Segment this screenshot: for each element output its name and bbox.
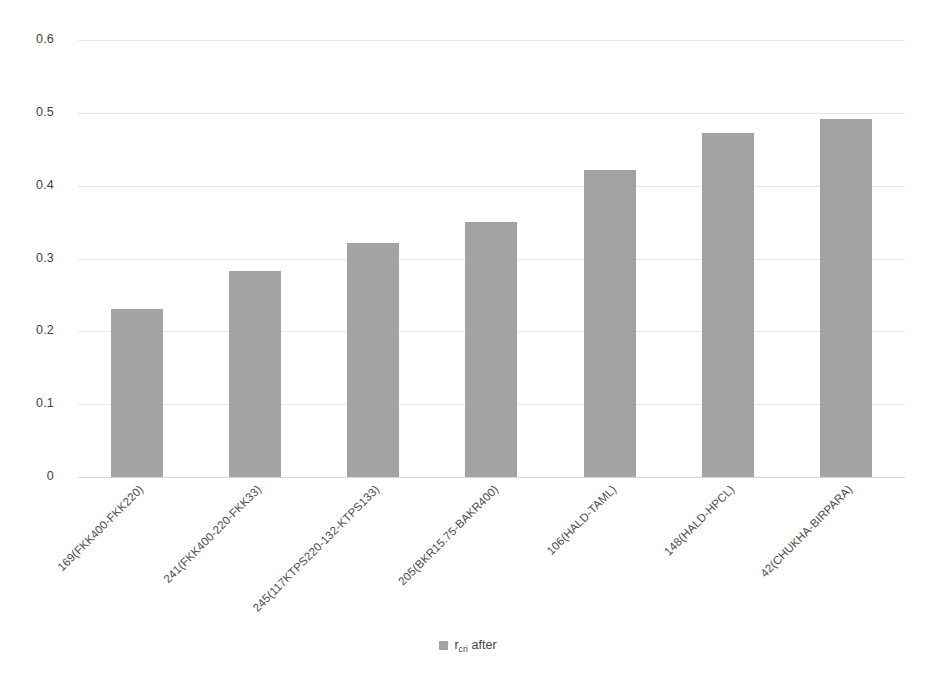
- y-axis-tick-label: 0.4: [0, 178, 54, 192]
- y-axis-tick-label: 0.6: [0, 32, 54, 46]
- legend-swatch-icon: [439, 641, 448, 650]
- bar[interactable]: [465, 222, 517, 477]
- bars-layer: [78, 40, 905, 477]
- bar-slot: [787, 40, 905, 477]
- legend-label-suffix: after: [468, 638, 497, 652]
- x-axis-labels: 169(FKK400-FKK220)241(FKK400-220-FKK33)2…: [78, 483, 905, 623]
- x-axis-tick-label-text: 205(BKR15.75-BAKR400): [396, 483, 500, 587]
- legend-label-subscript: cri: [459, 644, 469, 654]
- x-axis-tick-label-text: 241(FKK400-220-FKK33): [162, 483, 264, 585]
- bar[interactable]: [584, 170, 636, 477]
- y-axis-tick-label: 0: [0, 469, 54, 483]
- gridline: [78, 477, 905, 478]
- y-axis-tick-label: 0.2: [0, 323, 54, 337]
- x-axis-tick-label-text: 42(CHUKHA-BIRPARA): [758, 483, 854, 579]
- bar-slot: [669, 40, 787, 477]
- bar[interactable]: [347, 243, 399, 477]
- bar-chart: 169(FKK400-FKK220)241(FKK400-220-FKK33)2…: [0, 0, 936, 690]
- bar-slot: [78, 40, 196, 477]
- legend-label-base: r: [454, 638, 458, 652]
- bar[interactable]: [820, 119, 872, 477]
- legend-label: rcri after: [454, 638, 496, 652]
- x-axis-tick-label-text: 169(FKK400-FKK220): [55, 483, 145, 573]
- x-axis-tick-label-text: 148(HALD-HPCL): [662, 483, 737, 558]
- y-axis-tick-label: 0.5: [0, 105, 54, 119]
- y-axis-tick-label: 0.3: [0, 251, 54, 265]
- x-axis-tick-label-text: 245(117KTPS220-132-KTPS133): [251, 483, 382, 614]
- chart-legend: rcri after: [0, 638, 936, 652]
- x-axis-tick-label-text: 106(HALD-TAML): [544, 483, 618, 557]
- bar[interactable]: [702, 133, 754, 477]
- bar[interactable]: [229, 271, 281, 477]
- y-axis-tick-label: 0.1: [0, 396, 54, 410]
- bar[interactable]: [111, 309, 163, 477]
